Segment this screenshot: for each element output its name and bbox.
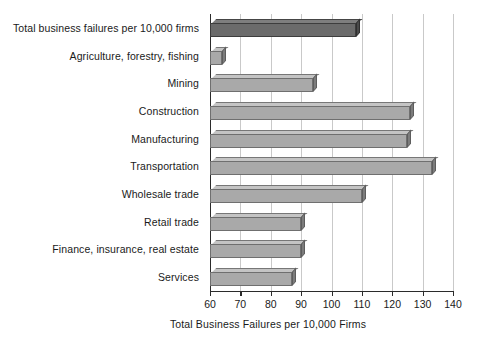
x-tick-label: 140	[444, 298, 462, 310]
gridline	[423, 14, 424, 291]
bar-side-face	[410, 101, 414, 119]
bar-side-face	[407, 129, 411, 147]
category-label-column: Total business failures per 10,000 firms…	[0, 14, 205, 291]
bar-front-face	[210, 51, 222, 65]
bar-side-face	[292, 268, 296, 286]
x-tick-label: 120	[383, 298, 401, 310]
bar-front-face	[210, 217, 301, 231]
bar[interactable]	[210, 157, 437, 175]
bar-chart: Total business failures per 10,000 firms…	[0, 0, 478, 349]
gridline	[362, 14, 363, 291]
bar-side-face	[301, 240, 305, 258]
category-label: Agriculture, forestry, fishing	[70, 50, 199, 62]
bar-front-face	[210, 161, 432, 175]
bar-front-face	[210, 244, 301, 258]
bar[interactable]	[210, 213, 306, 231]
x-tick-mark	[210, 291, 211, 296]
x-tick-label: 70	[235, 298, 247, 310]
bar[interactable]	[210, 47, 227, 65]
bar-side-face	[313, 74, 317, 92]
category-label: Finance, insurance, real estate	[52, 243, 199, 255]
category-label: Mining	[167, 77, 199, 89]
category-label: Transportation	[130, 160, 199, 172]
category-label: Services	[158, 271, 199, 283]
gridline	[453, 14, 454, 291]
bar-front-face	[210, 23, 356, 37]
x-axis-title: Total Business Failures per 10,000 Firms	[0, 318, 478, 330]
bar-front-face	[210, 134, 407, 148]
x-tick-mark	[453, 291, 454, 296]
bar-front-face	[210, 106, 410, 120]
category-label: Wholesale trade	[122, 188, 199, 200]
x-tick-label: 80	[265, 298, 277, 310]
x-tick-label: 100	[323, 298, 341, 310]
x-tick-mark	[423, 291, 424, 296]
x-tick-mark	[271, 291, 272, 296]
bar-front-face	[210, 78, 313, 92]
bar[interactable]	[210, 102, 415, 120]
bar[interactable]	[210, 19, 361, 37]
bar-side-face	[362, 185, 366, 203]
x-tick-label: 60	[204, 298, 216, 310]
x-tick-label: 90	[295, 298, 307, 310]
bar[interactable]	[210, 74, 318, 92]
x-tick-label: 130	[414, 298, 432, 310]
bar-side-face	[222, 46, 226, 64]
x-tick-mark	[332, 291, 333, 296]
bar-side-face	[301, 212, 305, 230]
gridline	[392, 14, 393, 291]
x-axis-title-text: Total Business Failures per 10,000 Firms	[112, 318, 366, 330]
bar-front-face	[210, 189, 362, 203]
gridline	[332, 14, 333, 291]
bar-side-face	[432, 157, 436, 175]
x-tick-label: 110	[354, 298, 371, 310]
x-tick-mark	[362, 291, 363, 296]
category-label: Manufacturing	[131, 133, 199, 145]
category-label: Retail trade	[144, 216, 199, 228]
category-label: Total business failures per 10,000 firms	[13, 22, 199, 34]
category-label: Construction	[139, 105, 199, 117]
bar[interactable]	[210, 185, 367, 203]
x-tick-mark	[392, 291, 393, 296]
plot-area	[210, 14, 453, 291]
bar-side-face	[356, 18, 360, 36]
x-tick-mark	[301, 291, 302, 296]
x-tick-mark	[240, 291, 241, 296]
bar-front-face	[210, 272, 292, 286]
bar[interactable]	[210, 268, 297, 286]
bar[interactable]	[210, 130, 412, 148]
bar[interactable]	[210, 240, 306, 258]
